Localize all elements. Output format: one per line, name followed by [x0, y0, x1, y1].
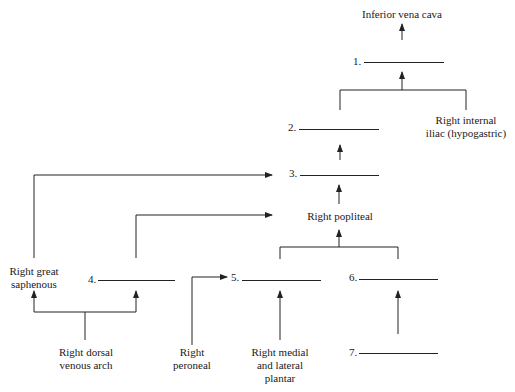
ivc-label: Inferior vena cava — [352, 8, 452, 21]
peroneal-label: Right peroneal — [166, 346, 218, 372]
internal-iliac-line1: Right internal — [418, 114, 514, 127]
dorsal-arch-line1: Right dorsal — [48, 346, 124, 359]
blank-6-number: 6. — [349, 271, 357, 284]
dorsal-arch-label: Right dorsal venous arch — [48, 346, 124, 372]
plantar-label: Right medial and lateral plantar — [240, 346, 320, 385]
blank-5-number: 5. — [231, 271, 239, 284]
great-saphenous-label: Right great saphenous — [2, 265, 66, 291]
blank-1-line[interactable] — [364, 62, 444, 63]
dorsal-arch-line2: venous arch — [48, 359, 124, 372]
internal-iliac-line2: iliac (hypogastric) — [418, 127, 514, 140]
blank-2-number: 2. — [288, 121, 296, 134]
great-saphenous-line2: saphenous — [2, 278, 66, 291]
blank-7-line[interactable] — [359, 353, 438, 354]
plantar-line3: plantar — [240, 372, 320, 385]
plantar-line1: Right medial — [240, 346, 320, 359]
blank-5-line[interactable] — [242, 280, 321, 281]
blank-2-line[interactable] — [299, 129, 379, 130]
peroneal-line2: peroneal — [166, 359, 218, 372]
great-saphenous-line1: Right great — [2, 265, 66, 278]
popliteal-label: Right popliteal — [298, 210, 382, 223]
peroneal-line1: Right — [166, 346, 218, 359]
plantar-line2: and lateral — [240, 359, 320, 372]
internal-iliac-label: Right internal iliac (hypogastric) — [418, 114, 514, 140]
blank-3-line[interactable] — [300, 175, 379, 176]
blank-3-number: 3. — [289, 167, 297, 180]
blank-7-number: 7. — [349, 346, 357, 359]
venous-flowchart: Inferior vena cava 1. 2. Right internal … — [0, 0, 515, 392]
blank-1-number: 1. — [353, 55, 361, 68]
blank-4-line[interactable] — [98, 280, 175, 281]
blank-6-line[interactable] — [359, 279, 438, 280]
connector-lines — [0, 0, 515, 392]
blank-4-number: 4. — [88, 273, 96, 286]
